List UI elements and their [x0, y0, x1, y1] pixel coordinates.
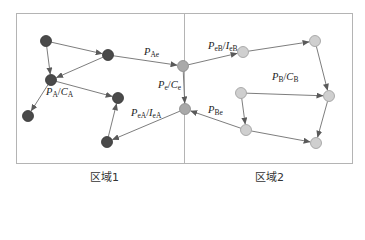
edge-arrow: [47, 46, 51, 74]
label-pea-iea: PeA/IeA: [131, 108, 161, 120]
edge-arrow: [51, 42, 102, 53]
label-pe-ce: Pe/Ce: [158, 80, 181, 92]
edge-arrow: [188, 53, 237, 64]
node-a5: [113, 93, 124, 104]
label-peb-ieb: PeB/IeB: [208, 41, 238, 53]
edge-arrow: [108, 104, 116, 137]
label-p-be: PBe: [208, 105, 223, 117]
label-pa-ca: PA/CA: [46, 87, 73, 99]
edge-arrow: [248, 42, 309, 51]
node-b1: [238, 47, 249, 58]
node-a4: [23, 111, 34, 122]
edge-arrow: [251, 131, 310, 142]
node-b3: [324, 91, 335, 102]
node-e2: [180, 104, 191, 115]
node-b5: [241, 125, 252, 136]
region2-label: 区域2: [255, 168, 284, 184]
edge-arrow: [318, 101, 328, 137]
node-e1: [178, 61, 189, 72]
edge-arrow: [316, 46, 327, 90]
edge-arrow: [246, 93, 323, 96]
edge-arrow: [242, 98, 245, 124]
node-b6: [311, 138, 322, 149]
node-a6: [102, 137, 113, 148]
node-a1: [41, 36, 52, 47]
label-pb-cb: PB/CB: [272, 72, 298, 84]
node-b4: [236, 88, 247, 99]
node-a3: [46, 75, 57, 86]
edge-arrow: [56, 57, 102, 77]
node-b2: [310, 36, 321, 47]
region1-label: 区域1: [90, 168, 119, 184]
label-p-ae: PAe: [144, 47, 159, 59]
node-a2: [103, 50, 114, 61]
